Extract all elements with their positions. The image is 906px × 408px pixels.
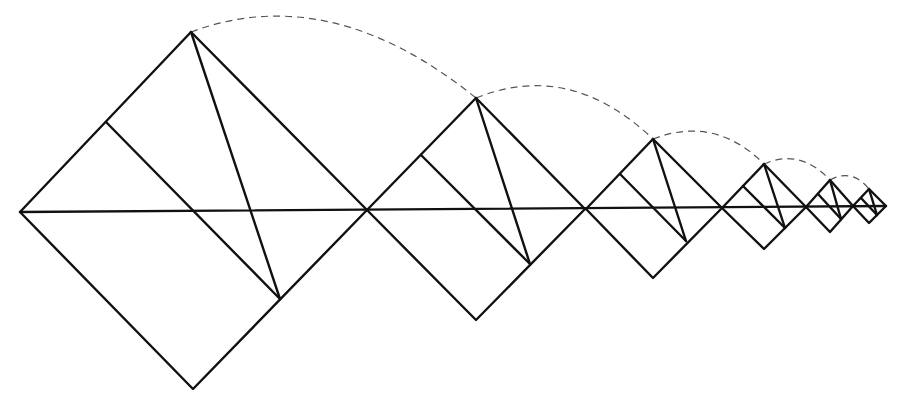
diagonal-line: [191, 32, 280, 299]
baseline-line: [20, 206, 886, 212]
diagram-canvas: [0, 0, 906, 408]
dashed-arc-3: [653, 131, 764, 164]
dashed-arc-1: [191, 16, 476, 98]
dashed-arcs: [191, 16, 869, 189]
diminishing-squares-diagram: [0, 0, 906, 408]
dashed-arc-4: [764, 159, 830, 180]
diagonal-line: [476, 98, 530, 264]
horizontal-baseline: [20, 206, 886, 212]
dashed-arc-2: [476, 86, 653, 139]
